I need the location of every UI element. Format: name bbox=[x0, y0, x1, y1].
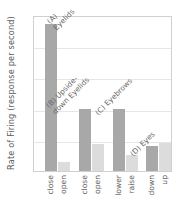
y-axis-label: Rate of Firing (response per second) bbox=[6, 16, 16, 170]
x-tick-label: open bbox=[59, 175, 68, 194]
x-tick-label: close bbox=[46, 175, 55, 195]
x-tick-lower: lower bbox=[113, 173, 123, 206]
x-axis-tick-labels: closeopencloseopenlowerraisedownup bbox=[33, 173, 172, 206]
bar bbox=[146, 146, 158, 171]
x-tick-open: open bbox=[58, 173, 68, 206]
x-tick-label: open bbox=[93, 175, 102, 194]
x-tick-raise: raise bbox=[126, 173, 136, 206]
y-axis-label-container: Rate of Firing (response per second) bbox=[0, 0, 22, 185]
x-tick-label: close bbox=[80, 175, 89, 195]
bar bbox=[79, 109, 91, 171]
firing-rate-bar-chart: Rate of Firing (response per second) clo… bbox=[0, 0, 185, 206]
x-tick-label: up bbox=[160, 175, 169, 185]
x-tick-open: open bbox=[92, 173, 102, 206]
x-tick-label: raise bbox=[127, 175, 136, 194]
x-tick-close: close bbox=[45, 173, 55, 206]
x-tick-label: lower bbox=[114, 175, 123, 196]
bar bbox=[92, 144, 104, 171]
x-tick-down: down bbox=[146, 173, 156, 206]
bar bbox=[58, 162, 70, 171]
x-tick-close: close bbox=[79, 173, 89, 206]
bar bbox=[159, 143, 171, 171]
bar bbox=[113, 109, 125, 171]
x-tick-label: down bbox=[147, 175, 156, 196]
x-tick-up: up bbox=[159, 173, 169, 206]
